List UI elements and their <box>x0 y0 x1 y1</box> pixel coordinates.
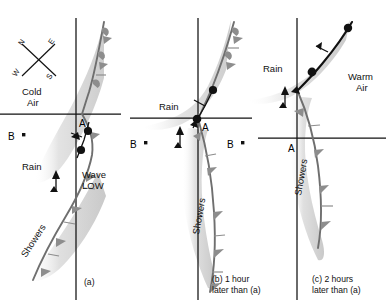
cold-air-label-line2: Air <box>27 97 39 108</box>
panel-a: N E W S Cold Air A B Rain Wave LOW Showe… <box>0 18 121 300</box>
cold-air-label-line1: Cold <box>22 86 42 97</box>
figure-canvas: N E W S Cold Air A B Rain Wave LOW Showe… <box>0 0 386 307</box>
point-b-dot-a <box>22 133 25 136</box>
point-label-a-b: A <box>202 122 209 133</box>
point-label-b-a: B <box>8 131 15 142</box>
panel-c: Rain Warm Air A Showers (c) 2 hours late… <box>246 18 386 300</box>
compass-w: W <box>10 66 22 78</box>
rain-shading-a <box>34 20 104 183</box>
rain-label-c: Rain <box>263 63 283 74</box>
caption-b-line2: later than (a) <box>212 285 261 295</box>
caption-c-line2: later than (a) <box>312 285 361 295</box>
rain-arrow-icon-b <box>174 126 184 148</box>
compass-n: N <box>16 37 27 47</box>
warm-air-label-line1: Warm <box>348 71 373 82</box>
panel-b: Rain A B B Showers (b) 1 hour later than… <box>130 18 261 300</box>
caption-a: (a) <box>84 277 95 287</box>
showers-label-a: Showers <box>18 222 47 259</box>
rain-label-a: Rain <box>22 161 42 172</box>
caption-b-line1: (b) 1 hour <box>212 274 249 284</box>
occluded-arrowhead-c <box>316 42 322 50</box>
point-b-dot-left-b <box>144 141 147 144</box>
point-label-a-c: A <box>288 143 295 154</box>
caption-c-line1: (c) 2 hours <box>312 274 353 284</box>
point-label-a: A <box>79 118 86 129</box>
point-label-b-right-b: B <box>227 139 234 150</box>
point-b-dot-right-b <box>241 141 244 144</box>
point-label-b-left-b: B <box>130 139 137 150</box>
wave-label-line1: Wave <box>82 169 106 180</box>
rain-label-b: Rain <box>159 101 179 112</box>
warm-air-label-line2: Air <box>356 82 368 93</box>
frontal-wave-diagram: N E W S Cold Air A B Rain Wave LOW Showe… <box>0 0 386 307</box>
compass-rose-a: N E W S <box>10 37 56 81</box>
wave-label-line2: LOW <box>82 180 104 191</box>
